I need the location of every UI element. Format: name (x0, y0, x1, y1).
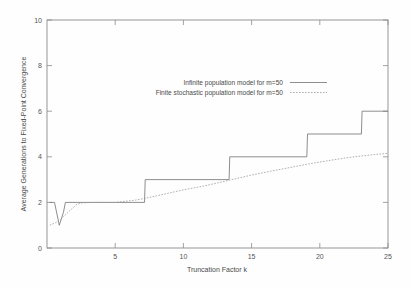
legend-label-1: Finite stochastic population model for m… (156, 89, 284, 97)
x-tick-label: 10 (180, 253, 188, 260)
legend-label-0: Infinite population model for m=50 (183, 79, 283, 87)
y-tick-label: 4 (38, 153, 42, 160)
series-finite-stochastic-line (50, 153, 388, 225)
x-axis-ticks: 510152025 (113, 20, 392, 260)
y-tick-label: 6 (38, 108, 42, 115)
chart-legend: Infinite population model for m=50 Finit… (156, 79, 327, 97)
y-tick-label: 0 (38, 245, 42, 252)
x-axis-title: Truncation Factor k (187, 266, 248, 273)
y-tick-label: 2 (38, 199, 42, 206)
x-tick-label: 25 (384, 253, 392, 260)
x-tick-label: 20 (316, 253, 324, 260)
chart-figure: 0246810 510152025 Infinite population mo… (0, 0, 411, 288)
series-infinite-population-line (50, 111, 388, 225)
x-tick-label: 5 (113, 253, 117, 260)
x-tick-label: 15 (248, 253, 256, 260)
plot-canvas: 0246810 510152025 Infinite population mo… (0, 0, 411, 288)
y-tick-label: 10 (34, 17, 42, 24)
y-tick-label: 8 (38, 62, 42, 69)
y-axis-title: Average Generations to Fixed-Point Conve… (20, 57, 28, 212)
